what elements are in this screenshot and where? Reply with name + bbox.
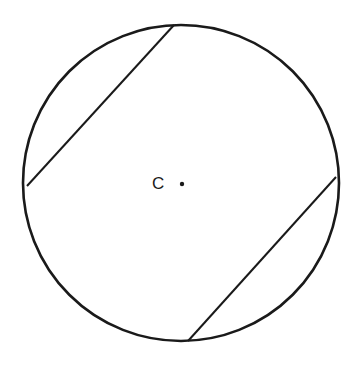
center-label: C <box>152 174 164 193</box>
center-point <box>180 182 184 186</box>
circle-diagram: C <box>0 0 357 368</box>
upper-left-chord <box>27 25 174 186</box>
lower-right-chord <box>188 177 336 341</box>
